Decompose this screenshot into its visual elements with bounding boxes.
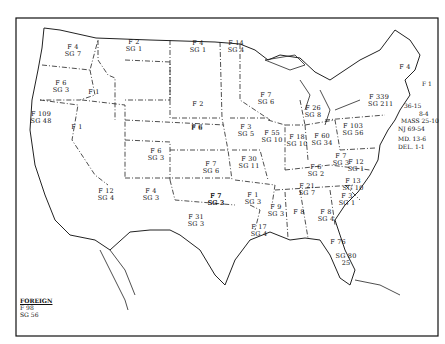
- state-label-ar: F 1SG 3: [242, 192, 264, 206]
- northeast-label: MASS 25-10: [401, 117, 439, 124]
- state-label-ky: F 6SG 2: [305, 164, 327, 178]
- state-label-ia: F 3SG 5: [235, 124, 257, 138]
- state-label-al: F 8: [288, 209, 310, 216]
- northeast-label: MD. 13-6: [398, 135, 426, 142]
- sg-count: SG 3: [242, 199, 264, 206]
- state-label-sc: F 3SG 1: [336, 193, 358, 207]
- f-count: F 2: [187, 101, 209, 108]
- state-label-mn: F 14SG 4: [225, 40, 247, 54]
- state-label-ut: F 6SG 3: [145, 148, 167, 162]
- sg-count: SG 11: [238, 163, 260, 170]
- sg-count: SG 10: [286, 141, 308, 148]
- state-label-nc: F 13SG 10: [342, 178, 364, 192]
- northeast-label: 8-4: [419, 110, 429, 117]
- sg-count: SG 3: [205, 200, 227, 207]
- f-count: F 1: [66, 124, 88, 131]
- legend-f: F 98: [20, 304, 52, 311]
- sg-count: SG 4: [95, 195, 117, 202]
- sg-count: SG 34: [311, 140, 333, 147]
- state-label-ms: F 9SG 3: [265, 204, 287, 218]
- legend-title: FOREIGN: [20, 297, 52, 304]
- state-label-pa: F 103SG 56: [342, 123, 364, 137]
- sg-count: SG 5: [235, 131, 257, 138]
- state-label-ny: F 339SG 211: [368, 94, 390, 108]
- sg-count: SG 8: [302, 112, 324, 119]
- sg-count: SG 3: [50, 87, 72, 94]
- state-label-oh: F 60SG 34: [311, 133, 333, 147]
- northeast-label: F 1: [422, 80, 432, 87]
- state-label-ga: F 8SG 4: [315, 209, 337, 223]
- state-label-ca: F 109SG 48: [30, 111, 52, 125]
- northeast-label: NJ 69-54: [398, 125, 425, 132]
- state-label-la: F 17SG 4: [248, 224, 270, 238]
- sg-count: SG 7: [62, 51, 84, 58]
- sg-count: SG 10: [261, 137, 283, 144]
- sg-count: SG 3: [145, 155, 167, 162]
- state-label-me: F 4: [394, 64, 416, 71]
- state-label-nv: F 1: [66, 124, 88, 131]
- state-label-mt: F 2SG 1: [123, 39, 145, 53]
- state-label-az: F 12SG 4: [95, 188, 117, 202]
- sg-count: SG 56: [342, 130, 364, 137]
- sg-count: SG 4: [315, 216, 337, 223]
- northeast-label: 36-15: [404, 102, 421, 109]
- f-count: F 4: [394, 64, 416, 71]
- state-label-ne_st: F 7SG 6: [200, 161, 222, 175]
- sg-count: SG 3: [140, 195, 162, 202]
- sg-count: SG 211: [368, 101, 390, 108]
- state-label-tn: F 21SG 7: [296, 183, 318, 197]
- northeast-label: DEL. 1-1: [398, 143, 425, 150]
- sg-count: SG 1: [187, 47, 209, 54]
- state-label-fl: F 76: [327, 239, 349, 246]
- state-label-nd: F 4SG 1: [187, 40, 209, 54]
- sg-count: SG 48: [30, 118, 52, 125]
- sg-count: SG 4: [225, 47, 247, 54]
- state-label-ok: F 7SG 3: [205, 193, 227, 207]
- state-label-sd: F 6: [186, 124, 208, 131]
- state-label-mo: F 30SG 11: [238, 156, 260, 170]
- state-label-fl2: SG 8025: [335, 253, 357, 267]
- state-label-in: F 18SG 10: [286, 134, 308, 148]
- state-label-id: F 1: [83, 89, 105, 96]
- sg-count: 25: [335, 260, 357, 267]
- state-label-wa: F 4SG 7: [62, 44, 84, 58]
- state-label-nm: F 4SG 3: [140, 188, 162, 202]
- sg-count: SG 3: [330, 160, 352, 167]
- sg-count: SG 1: [123, 46, 145, 53]
- sg-count: SG 3: [185, 221, 207, 228]
- sg-count: SG 7: [296, 190, 318, 197]
- f-count: F 1: [83, 89, 105, 96]
- sg-count: SG 2: [305, 171, 327, 178]
- sg-count: SG 1: [345, 166, 367, 173]
- f-count: F 6: [186, 124, 208, 131]
- sg-count: SG 6: [255, 99, 277, 106]
- state-label-tx: F 31SG 3: [185, 214, 207, 228]
- f-count: F 76: [327, 239, 349, 246]
- state-label-il: F 55SG 10: [261, 130, 283, 144]
- state-label-mi: F 26SG 8: [302, 105, 324, 119]
- state-label-or: F 6SG 3: [50, 80, 72, 94]
- f-count: F 8: [288, 209, 310, 216]
- sg-count: SG 10: [342, 185, 364, 192]
- sg-count: SG 1: [336, 200, 358, 207]
- sg-count: SG 4: [248, 231, 270, 238]
- sg-count: SG 6: [200, 168, 222, 175]
- state-label-wi: F 7SG 6: [255, 92, 277, 106]
- sg-count: SG 3: [265, 211, 287, 218]
- legend-sg: SG 56: [20, 311, 52, 318]
- legend-foreign: FOREIGN F 98 SG 56: [20, 297, 52, 318]
- state-label-wv: F 7SG 3: [330, 153, 352, 167]
- state-label-wy: F 2: [187, 101, 209, 108]
